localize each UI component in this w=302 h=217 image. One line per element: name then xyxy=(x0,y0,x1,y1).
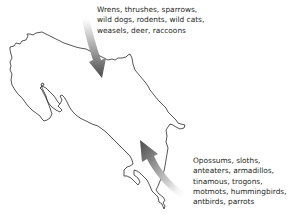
south-label-line: motmots, hummingbirds, xyxy=(193,187,287,197)
north-label-line: Wrens, thrushes, sparrows, xyxy=(97,5,204,15)
north-label-line: weasels, deer, raccoons xyxy=(97,26,204,36)
south-species-label: Opossums, sloths, anteaters, armadillos,… xyxy=(193,156,287,207)
south-label-line: Opossums, sloths, xyxy=(193,156,287,166)
south-label-line: antbirds, parrots xyxy=(193,197,287,207)
north-label-line: wild dogs, rodents, wild cats, xyxy=(97,15,204,25)
south-arrow-icon xyxy=(140,140,186,198)
south-label-line: anteaters, armadillos, xyxy=(193,166,287,176)
north-species-label: Wrens, thrushes, sparrows, wild dogs, ro… xyxy=(97,5,204,36)
south-label-line: tinamous, trogons, xyxy=(193,177,287,187)
